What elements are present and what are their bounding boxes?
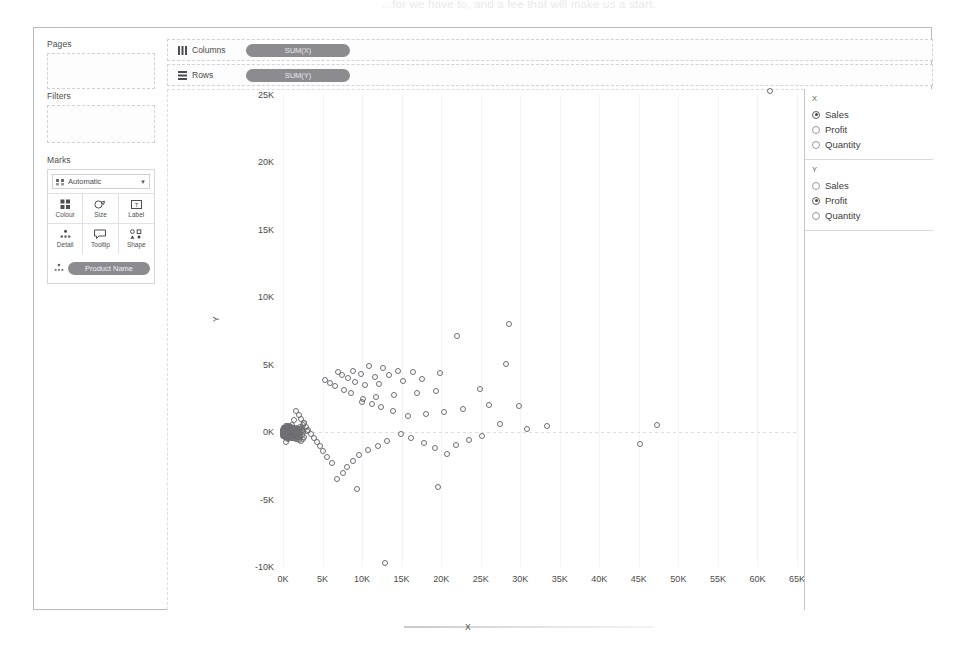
radio-button-icon[interactable] [812, 212, 820, 220]
parameter-option-quantity[interactable]: Quantity [812, 137, 926, 152]
marks-detail-pill-row: Product Name [48, 254, 154, 283]
marks-label-button[interactable]: T Label [119, 194, 154, 224]
scatter-point[interactable] [479, 433, 485, 439]
radio-button-icon[interactable] [812, 197, 820, 205]
scatter-point[interactable] [340, 470, 346, 476]
scatter-point[interactable] [384, 438, 390, 444]
scatter-point[interactable] [345, 375, 351, 381]
scatter-point[interactable] [400, 378, 406, 384]
scatter-point[interactable] [421, 440, 427, 446]
scatter-point[interactable] [362, 382, 368, 388]
marks-detail-button[interactable]: Detail [48, 224, 83, 254]
scatter-point[interactable] [390, 408, 396, 414]
columns-shelf-pill[interactable]: SUM(X) [246, 44, 350, 57]
marks-detail-pill[interactable]: Product Name [68, 262, 150, 275]
scatter-point[interactable] [524, 426, 530, 432]
scatter-point[interactable] [335, 369, 341, 375]
scatter-point[interactable] [359, 399, 365, 405]
scatter-point[interactable] [453, 442, 459, 448]
scatter-point[interactable] [358, 371, 364, 377]
marks-shape-button[interactable]: Shape [119, 224, 154, 254]
radio-button-icon[interactable] [812, 111, 820, 119]
scatter-point[interactable] [369, 401, 375, 407]
scatter-point[interactable] [332, 383, 338, 389]
scatter-point[interactable] [378, 404, 384, 410]
scatter-point[interactable] [466, 437, 472, 443]
mark-type-selector[interactable]: Automatic ▼ [52, 174, 150, 189]
scatter-point[interactable] [410, 369, 416, 375]
scatter-point[interactable] [386, 372, 392, 378]
rows-shelf[interactable]: Rows SUM(Y) [167, 64, 933, 86]
scatter-point[interactable] [373, 394, 379, 400]
scatter-point[interactable] [329, 460, 335, 466]
parameter-option-sales[interactable]: Sales [812, 107, 926, 122]
scatter-point[interactable] [352, 379, 358, 385]
scatter-point[interactable] [444, 451, 450, 457]
scatter-point[interactable] [350, 368, 356, 374]
parameter-option-quantity[interactable]: Quantity [812, 208, 926, 223]
marks-tooltip-button[interactable]: Tooltip [83, 224, 118, 254]
scatter-point[interactable] [544, 423, 550, 429]
scatter-point[interactable] [414, 390, 420, 396]
scatter-point[interactable] [419, 376, 425, 382]
scatter-point[interactable] [441, 409, 447, 415]
radio-button-icon[interactable] [812, 141, 820, 149]
scatter-point[interactable] [320, 448, 326, 454]
parameter-option-profit[interactable]: Profit [812, 193, 926, 208]
scatter-point[interactable] [437, 370, 443, 376]
scatter-point[interactable] [516, 403, 522, 409]
scatter-point[interactable] [395, 368, 401, 374]
scatter-point[interactable] [293, 408, 299, 414]
scatter-point[interactable] [376, 381, 382, 387]
scatter-point[interactable] [408, 435, 414, 441]
columns-shelf[interactable]: Columns SUM(X) [167, 39, 933, 61]
scatter-point[interactable] [344, 464, 350, 470]
scatter-point[interactable] [366, 363, 372, 369]
scatter-point[interactable] [350, 458, 356, 464]
scatter-point[interactable] [506, 321, 512, 327]
scatter-point[interactable] [405, 413, 411, 419]
scatter-point[interactable] [334, 476, 340, 482]
scatter-point[interactable] [297, 424, 303, 430]
scatter-point[interactable] [435, 484, 441, 490]
marks-colour-button[interactable]: Colour [48, 194, 83, 224]
scatter-point[interactable] [391, 392, 397, 398]
parameter-option-sales[interactable]: Sales [812, 178, 926, 193]
scatter-point[interactable] [304, 428, 310, 434]
radio-button-icon[interactable] [812, 126, 820, 134]
scatter-point[interactable] [348, 390, 354, 396]
scatter-point[interactable] [477, 386, 483, 392]
scatter-point[interactable] [486, 402, 492, 408]
scatter-point[interactable] [398, 431, 404, 437]
scatter-point[interactable] [281, 428, 287, 434]
scatter-point[interactable] [497, 421, 503, 427]
scatter-point[interactable] [341, 387, 347, 393]
rows-shelf-pill[interactable]: SUM(Y) [246, 69, 350, 82]
radio-button-icon[interactable] [812, 182, 820, 190]
scatter-point[interactable] [432, 445, 438, 451]
scatter-point[interactable] [354, 486, 360, 492]
scatter-point[interactable] [454, 333, 460, 339]
scatter-point[interactable] [296, 437, 302, 443]
scatter-point[interactable] [372, 374, 378, 380]
scatter-point[interactable] [356, 452, 362, 458]
marks-size-button[interactable]: Size [83, 194, 118, 224]
pages-shelf-dropzone[interactable] [47, 53, 155, 89]
scatter-point[interactable] [324, 454, 330, 460]
scatter-point[interactable] [375, 443, 381, 449]
filters-shelf-dropzone[interactable] [47, 105, 155, 143]
scatter-point[interactable] [382, 560, 388, 566]
scatter-point[interactable] [423, 411, 429, 417]
scatter-point[interactable] [380, 365, 386, 371]
scatter-point[interactable] [433, 388, 439, 394]
scatter-point[interactable] [503, 361, 509, 367]
scatter-point[interactable] [460, 406, 466, 412]
plot-area[interactable] [283, 95, 797, 567]
scatter-point[interactable] [654, 422, 660, 428]
scatter-plot-view[interactable]: Y X 25K20K15K10K5K0K-5K-10K 0K5K10K15K20… [167, 89, 804, 610]
scatter-point[interactable] [767, 88, 773, 94]
parameter-option-profit[interactable]: Profit [812, 122, 926, 137]
scatter-point[interactable] [637, 441, 643, 447]
scatter-point[interactable] [365, 447, 371, 453]
scatter-point[interactable] [322, 377, 328, 383]
